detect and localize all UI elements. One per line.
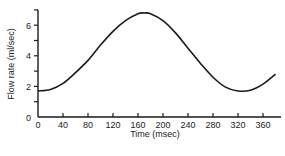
flow-rate-chart: 0246 04080120160200240280320360 Time (ms… xyxy=(0,0,285,156)
y-axis: 0246 xyxy=(26,10,38,123)
x-tick-label: 280 xyxy=(205,120,220,130)
x-tick-label: 320 xyxy=(230,120,245,130)
x-axis-label: Time (msec) xyxy=(130,129,180,139)
y-tick-label: 6 xyxy=(26,21,31,31)
x-tick-label: 120 xyxy=(105,120,120,130)
x-axis: 04080120160200240280320360 xyxy=(35,113,281,130)
y-tick-label: 0 xyxy=(26,113,31,123)
x-tick-label: 40 xyxy=(58,120,68,130)
y-tick-label: 4 xyxy=(26,51,31,61)
flow-rate-line xyxy=(38,13,276,91)
x-tick-label: 360 xyxy=(255,120,270,130)
x-tick-label: 240 xyxy=(180,120,195,130)
x-tick-label: 80 xyxy=(83,120,93,130)
x-tick-label: 0 xyxy=(35,120,40,130)
y-axis-label: Flow rate (ml/sec) xyxy=(6,28,16,100)
y-tick-label: 2 xyxy=(26,82,31,92)
